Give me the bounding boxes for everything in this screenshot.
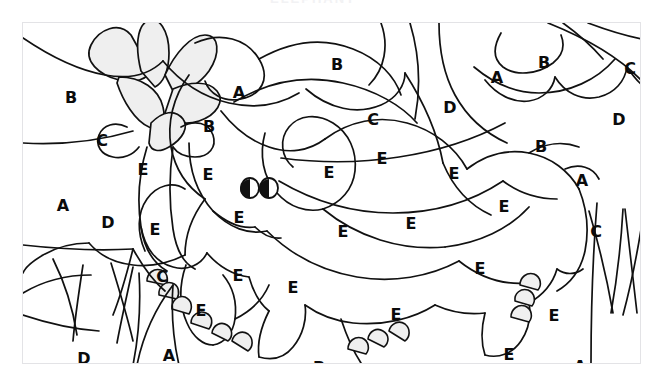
region-letter-d: D bbox=[443, 100, 456, 116]
region-letter-c: C bbox=[367, 112, 379, 128]
region-letter-e: E bbox=[504, 347, 515, 363]
region-letter-e: E bbox=[138, 162, 149, 178]
region-letter-a: A bbox=[163, 348, 175, 364]
region-letter-a: A bbox=[576, 173, 588, 189]
region-letter-e: E bbox=[549, 308, 560, 324]
region-letter-e: E bbox=[338, 224, 349, 240]
region-letter-e: E bbox=[406, 216, 417, 232]
region-letter-c: C bbox=[590, 224, 602, 240]
cut-off-title-strip: ELEPHANT bbox=[0, 0, 666, 12]
region-letter-e: E bbox=[499, 199, 510, 215]
region-letter-d: D bbox=[101, 215, 114, 231]
ghost-title-text: ELEPHANT bbox=[270, 0, 356, 6]
region-letter-b: B bbox=[331, 57, 343, 73]
region-letter-e: E bbox=[150, 222, 161, 238]
artwork-frame: BBAABCCBCDDEEEEEBAADEEEEECBCEEEEEEDABCEA… bbox=[22, 22, 641, 364]
region-letter-c: C bbox=[434, 362, 446, 364]
region-letter-e: E bbox=[234, 210, 245, 226]
region-letter-c: C bbox=[624, 61, 636, 77]
region-letter-a: A bbox=[233, 85, 245, 101]
region-letter-e: E bbox=[391, 307, 402, 323]
region-letter-e: E bbox=[475, 261, 486, 277]
coloring-page-canvas: ELEPHANT bbox=[0, 0, 666, 383]
region-letter-b: B bbox=[203, 119, 215, 135]
region-letter-e: E bbox=[203, 167, 214, 183]
region-letter-e: E bbox=[377, 151, 388, 167]
region-letter-b: B bbox=[535, 139, 547, 155]
eye-left bbox=[240, 178, 259, 198]
region-letter-e: E bbox=[449, 166, 460, 182]
region-letter-d: D bbox=[612, 112, 625, 128]
region-letter-d: D bbox=[77, 351, 90, 364]
region-letter-e: E bbox=[196, 303, 207, 319]
region-letter-a: A bbox=[57, 198, 69, 214]
region-letter-a: A bbox=[574, 359, 586, 364]
region-letter-e: E bbox=[288, 280, 299, 296]
region-letter-c: C bbox=[156, 269, 168, 285]
water-spray-shape bbox=[89, 23, 220, 150]
eye-right bbox=[259, 178, 278, 198]
region-letter-c: C bbox=[96, 133, 108, 149]
region-letter-e: E bbox=[233, 268, 244, 284]
region-letter-a: A bbox=[491, 70, 503, 86]
region-letter-b: B bbox=[65, 90, 77, 106]
region-letter-b: B bbox=[313, 360, 325, 364]
region-letter-e: E bbox=[324, 165, 335, 181]
region-letter-b: B bbox=[538, 55, 550, 71]
